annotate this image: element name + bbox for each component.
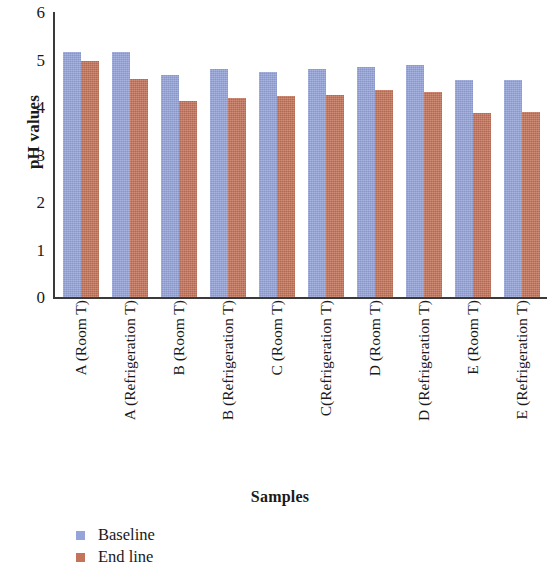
x-axis-tick-label: C (Room T)	[269, 300, 285, 376]
y-axis-tick-6: 6	[37, 4, 46, 21]
y-axis-tick-5: 5	[37, 51, 46, 68]
bar-endline	[228, 98, 246, 298]
bar-baseline	[406, 65, 424, 297]
legend-item-1: End line	[76, 546, 155, 568]
legend-swatch-icon	[76, 553, 85, 562]
x-axis-tick-cell-7: D (Refrigeration T)	[400, 300, 449, 485]
legend-label: End line	[98, 549, 153, 566]
bar-endline	[81, 61, 99, 297]
bar-group	[203, 12, 252, 297]
x-axis-tick-label: B (Refrigeration T)	[220, 300, 236, 420]
bar-groups	[56, 12, 547, 297]
bar-endline	[375, 90, 393, 297]
bar-endline	[424, 92, 442, 297]
x-axis-tick-label: A (Refrigeration T)	[122, 300, 138, 420]
bar-baseline	[504, 80, 522, 297]
x-axis-tick-labels: A (Room T)A (Refrigeration T)B (Room T)B…	[56, 300, 547, 485]
x-axis-tick-cell-9: E (Refrigeration T)	[498, 300, 547, 485]
bar-baseline	[112, 52, 130, 297]
x-axis-tick-label: D (Room T)	[367, 300, 383, 376]
x-axis-tick-cell-2: B (Room T)	[154, 300, 203, 485]
bar-endline	[130, 79, 148, 298]
y-axis-tick-1: 1	[37, 241, 46, 258]
chart-legend: BaselineEnd line	[76, 524, 155, 568]
bar-group	[400, 12, 449, 297]
x-axis-tick-cell-0: A (Room T)	[56, 300, 105, 485]
x-axis-tick-cell-3: B (Refrigeration T)	[203, 300, 252, 485]
plot-area: 0123456	[53, 12, 550, 298]
bar-baseline	[161, 75, 179, 297]
bar-group	[351, 12, 400, 297]
x-axis-tick-label: B (Room T)	[171, 300, 187, 376]
y-axis-title: pH values	[24, 72, 44, 192]
bar-endline	[522, 112, 540, 297]
bar-baseline	[259, 72, 277, 297]
bar-endline	[326, 95, 344, 297]
x-axis-tick-label: A (Room T)	[73, 300, 89, 376]
bar-group	[252, 12, 301, 297]
bar-group	[105, 12, 154, 297]
x-axis-tick-label: E (Room T)	[466, 300, 482, 375]
x-axis-tick-label: D (Refrigeration T)	[416, 300, 432, 421]
bar-baseline	[455, 80, 473, 297]
bar-group	[56, 12, 105, 297]
bar-baseline	[210, 69, 228, 297]
x-axis-tick-cell-1: A (Refrigeration T)	[105, 300, 154, 485]
x-axis-tick-label: C(Refrigeration T)	[318, 300, 334, 416]
legend-swatch-icon	[76, 531, 85, 540]
x-axis-tick-cell-5: C(Refrigeration T)	[301, 300, 350, 485]
bar-group	[301, 12, 350, 297]
y-axis-tick-0: 0	[37, 289, 46, 306]
bar-endline	[277, 96, 295, 297]
x-axis-tick-cell-4: C (Room T)	[252, 300, 301, 485]
bar-endline	[473, 113, 491, 297]
bar-chart-figure: pH values 0123456 A (Room T)A (Refrigera…	[0, 0, 553, 582]
legend-item-0: Baseline	[76, 524, 155, 546]
bar-baseline	[357, 67, 375, 297]
bar-group	[154, 12, 203, 297]
y-axis-line	[53, 12, 55, 298]
x-axis-tick-cell-6: D (Room T)	[351, 300, 400, 485]
bar-group	[498, 12, 547, 297]
bar-baseline	[308, 69, 326, 297]
bar-endline	[179, 101, 197, 297]
y-axis-tick-4: 4	[37, 99, 46, 116]
x-axis-tick-label: E (Refrigeration T)	[515, 300, 531, 419]
y-axis-tick-2: 2	[37, 194, 46, 211]
x-axis-tick-cell-8: E (Room T)	[449, 300, 498, 485]
y-axis-tick-3: 3	[37, 146, 46, 163]
bar-group	[449, 12, 498, 297]
legend-label: Baseline	[98, 527, 155, 544]
x-axis-title: Samples	[0, 488, 553, 506]
bar-baseline	[63, 52, 81, 297]
